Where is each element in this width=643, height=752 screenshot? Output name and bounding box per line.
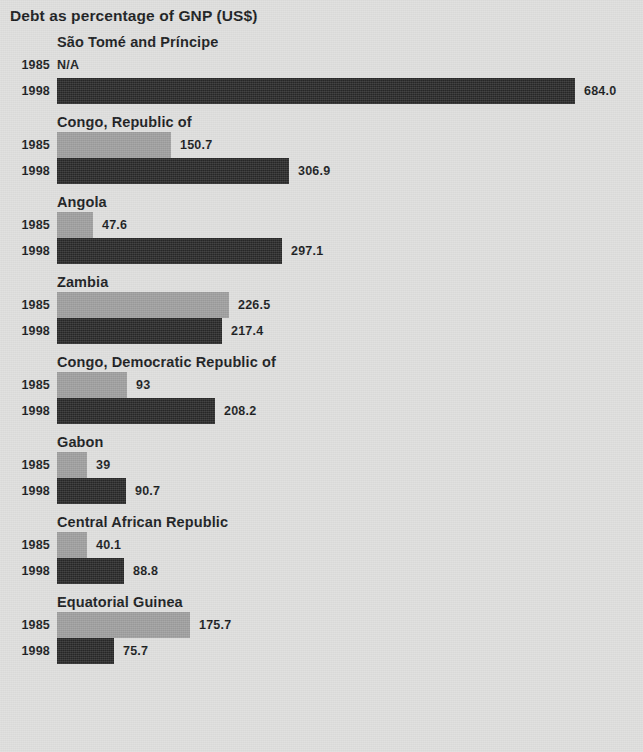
bar-value-label: 208.2 <box>224 404 256 418</box>
year-label: 1985 <box>0 298 50 312</box>
bar-1985 <box>57 372 127 398</box>
bar-row: 198540.1 <box>0 532 643 558</box>
year-label: 1998 <box>0 164 50 178</box>
bar-row: 199890.7 <box>0 478 643 504</box>
bar-1985 <box>57 292 229 318</box>
year-label: 1985 <box>0 458 50 472</box>
year-label: 1985 <box>0 218 50 232</box>
bar-1985 <box>57 212 93 238</box>
country-group: Central African Republic198540.1199888.8 <box>0 513 643 584</box>
bar-value-label: N/A <box>57 58 79 72</box>
bar-row: 199888.8 <box>0 558 643 584</box>
bar-track: 297.1 <box>57 238 323 264</box>
country-name: São Tomé and Príncipe <box>57 33 643 52</box>
bar-track: 208.2 <box>57 398 256 424</box>
year-label: 1998 <box>0 564 50 578</box>
bar-row: 1985226.5 <box>0 292 643 318</box>
bar-track: 40.1 <box>57 532 121 558</box>
year-label: 1998 <box>0 644 50 658</box>
year-label: 1985 <box>0 138 50 152</box>
country-name: Gabon <box>57 433 643 452</box>
country-name: Congo, Republic of <box>57 113 643 132</box>
bar-row: 199875.7 <box>0 638 643 664</box>
debt-gnp-bar-chart: Debt as percentage of GNP (US$) São Tomé… <box>0 0 643 752</box>
bar-value-label: 39 <box>96 458 110 472</box>
bar-track: 684.0 <box>57 78 616 104</box>
country-group: Congo, Democratic Republic of19859319982… <box>0 353 643 424</box>
year-label: 1998 <box>0 484 50 498</box>
country-name: Congo, Democratic Republic of <box>57 353 643 372</box>
bar-value-label: 90.7 <box>135 484 160 498</box>
country-group: Angola198547.61998297.1 <box>0 193 643 264</box>
bar-row: 1998684.0 <box>0 78 643 104</box>
bar-track: 306.9 <box>57 158 330 184</box>
bar-1998 <box>57 238 282 264</box>
bar-row: 1998217.4 <box>0 318 643 344</box>
bar-value-label: 47.6 <box>102 218 127 232</box>
year-label: 1998 <box>0 244 50 258</box>
bar-value-label: 684.0 <box>584 84 616 98</box>
year-label: 1998 <box>0 324 50 338</box>
year-label: 1985 <box>0 618 50 632</box>
bar-track: N/A <box>57 52 79 78</box>
bar-1985 <box>57 132 171 158</box>
bar-row: 1985150.7 <box>0 132 643 158</box>
country-name: Angola <box>57 193 643 212</box>
country-group: Gabon198539199890.7 <box>0 433 643 504</box>
bar-track: 47.6 <box>57 212 127 238</box>
country-group: Zambia1985226.51998217.4 <box>0 273 643 344</box>
bar-value-label: 226.5 <box>238 298 270 312</box>
year-label: 1985 <box>0 378 50 392</box>
bar-1985 <box>57 612 190 638</box>
bar-track: 226.5 <box>57 292 270 318</box>
bar-row: 1998306.9 <box>0 158 643 184</box>
country-group: Equatorial Guinea1985175.7199875.7 <box>0 593 643 664</box>
year-label: 1985 <box>0 538 50 552</box>
bar-1998 <box>57 158 289 184</box>
bar-1985 <box>57 452 87 478</box>
bar-track: 75.7 <box>57 638 148 664</box>
bar-1985 <box>57 532 87 558</box>
bar-value-label: 306.9 <box>298 164 330 178</box>
bar-value-label: 75.7 <box>123 644 148 658</box>
bar-value-label: 175.7 <box>199 618 231 632</box>
bar-track: 88.8 <box>57 558 158 584</box>
country-name: Zambia <box>57 273 643 292</box>
bar-row: 1985N/A <box>0 52 643 78</box>
bar-1998 <box>57 558 124 584</box>
chart-groups: São Tomé and Príncipe1985N/A1998684.0Con… <box>0 33 643 673</box>
year-label: 1985 <box>0 58 50 72</box>
bar-row: 1998208.2 <box>0 398 643 424</box>
bar-value-label: 217.4 <box>231 324 263 338</box>
bar-1998 <box>57 638 114 664</box>
bar-track: 217.4 <box>57 318 263 344</box>
bar-track: 90.7 <box>57 478 160 504</box>
bar-track: 93 <box>57 372 150 398</box>
chart-title: Debt as percentage of GNP (US$) <box>10 7 257 25</box>
bar-row: 198539 <box>0 452 643 478</box>
bar-value-label: 297.1 <box>291 244 323 258</box>
bar-1998 <box>57 478 126 504</box>
bar-track: 39 <box>57 452 110 478</box>
bar-1998 <box>57 78 575 104</box>
bar-value-label: 40.1 <box>96 538 121 552</box>
bar-row: 1985175.7 <box>0 612 643 638</box>
bar-value-label: 88.8 <box>133 564 158 578</box>
year-label: 1998 <box>0 84 50 98</box>
bar-1998 <box>57 318 222 344</box>
bar-value-label: 150.7 <box>180 138 212 152</box>
country-group: Congo, Republic of1985150.71998306.9 <box>0 113 643 184</box>
country-name: Central African Republic <box>57 513 643 532</box>
bar-track: 150.7 <box>57 132 212 158</box>
country-name: Equatorial Guinea <box>57 593 643 612</box>
bar-row: 198547.6 <box>0 212 643 238</box>
bar-row: 1998297.1 <box>0 238 643 264</box>
bar-1998 <box>57 398 215 424</box>
bar-track: 175.7 <box>57 612 231 638</box>
year-label: 1998 <box>0 404 50 418</box>
bar-row: 198593 <box>0 372 643 398</box>
country-group: São Tomé and Príncipe1985N/A1998684.0 <box>0 33 643 104</box>
bar-value-label: 93 <box>136 378 150 392</box>
